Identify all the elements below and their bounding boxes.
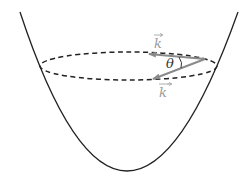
label-theta: θ bbox=[166, 56, 174, 71]
vector-k-prime-arrow bbox=[153, 59, 205, 79]
parabola-diagram: k θ k ′ bbox=[0, 0, 250, 177]
dashed-cross-section bbox=[40, 52, 217, 80]
label-k: k bbox=[154, 36, 162, 51]
parabola-curve bbox=[20, 12, 238, 171]
theta-angle-arc bbox=[179, 57, 182, 68]
label-k-prime: k bbox=[159, 85, 167, 100]
